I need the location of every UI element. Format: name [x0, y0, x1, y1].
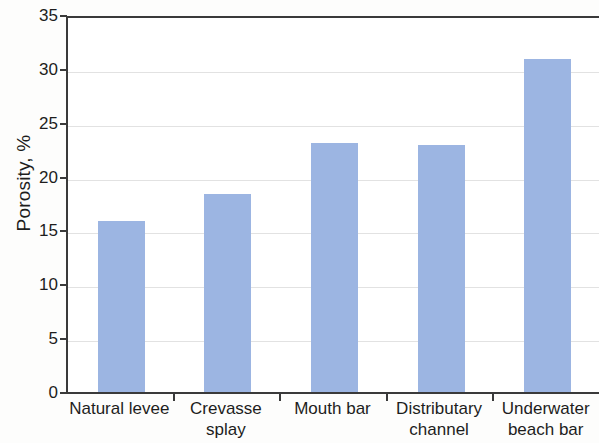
- x-axis-tick-mark: [386, 394, 388, 401]
- x-axis-tick-mark: [492, 394, 494, 401]
- x-axis-category-label-line: Distributary: [386, 398, 493, 419]
- x-axis-category-label: Mouth bar: [279, 398, 386, 419]
- x-axis-line: [66, 392, 599, 394]
- x-axis-category-label: Crevassesplay: [173, 398, 280, 440]
- x-axis-category-label: Natural levee: [66, 398, 173, 419]
- x-axis-category-label-line: splay: [173, 419, 280, 440]
- bar: [524, 59, 571, 393]
- bar: [204, 194, 251, 393]
- bar: [418, 145, 465, 393]
- x-axis-tick-mark: [279, 394, 281, 401]
- x-axis-category-label-line: Natural levee: [66, 398, 173, 419]
- bar-chart: Porosity, % 35302520151050 Natural levee…: [0, 0, 599, 443]
- x-axis-category-labels: Natural leveeCrevassesplayMouth barDistr…: [66, 398, 599, 443]
- x-axis-category-label-line: Crevasse: [173, 398, 280, 419]
- x-axis-category-label-line: beach bar: [492, 419, 599, 440]
- bar: [98, 221, 145, 393]
- x-axis-tick-mark: [173, 394, 175, 401]
- gridline: [68, 72, 599, 73]
- x-axis-category-label-line: Mouth bar: [279, 398, 386, 419]
- x-axis-category-label-line: channel: [386, 419, 493, 440]
- plot-inner: [68, 18, 599, 393]
- x-axis-category-label: Underwaterbeach bar: [492, 398, 599, 440]
- y-axis-tick-marks: [0, 16, 70, 393]
- plot-area: [66, 16, 599, 393]
- x-axis-category-label-line: Underwater: [492, 398, 599, 419]
- bar: [311, 143, 358, 393]
- gridline: [68, 126, 599, 127]
- x-axis-category-label: Distributarychannel: [386, 398, 493, 440]
